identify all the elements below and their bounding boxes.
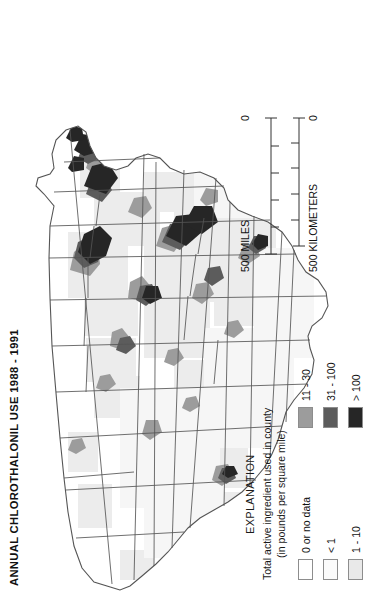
scale-miles-zero: 0	[239, 115, 251, 121]
legend-subtitle-line2: (in pounds per square mile)	[275, 430, 287, 558]
legend-swatch-0-or-no-data	[298, 559, 313, 580]
scale-kilometers-label: 500 KILOMETERS	[307, 184, 319, 272]
map-legend: EXPLANATION Total active ingredient used…	[244, 280, 384, 580]
legend-item-0-or-no-data[interactable]: 0 or no data	[298, 497, 313, 580]
legend-label-1-to-10: 1 - 10	[350, 526, 362, 553]
map-plate: ANNUAL CHLOROTHALONIL USE 1988 - 1991	[0, 0, 392, 604]
legend-label-31-to-100: 31 - 100	[325, 362, 337, 401]
scale-bar: 500 MILES 0 500 KILOMETERS 0	[255, 98, 325, 268]
page-title: ANNUAL CHLOROTHALONIL USE 1988 - 1991	[8, 329, 20, 586]
legend-item-over-100[interactable]: > 100	[348, 374, 363, 428]
legend-label-over-100: > 100	[350, 374, 362, 401]
legend-label-under-1: < 1	[325, 538, 337, 553]
legend-swatch-under-1	[323, 559, 338, 580]
legend-label-0-or-no-data: 0 or no data	[300, 497, 312, 553]
legend-item-under-1[interactable]: < 1	[323, 538, 338, 580]
legend-label-11-to-30: 11 - 30	[300, 369, 312, 401]
legend-item-11-to-30[interactable]: 11 - 30	[298, 369, 313, 428]
legend-swatch-1-to-10	[348, 559, 363, 580]
legend-heading: EXPLANATION	[244, 454, 256, 534]
legend-swatch-11-to-30	[298, 407, 313, 428]
legend-subtitle-line1: Total active ingredient used in county	[261, 408, 273, 580]
legend-item-31-to-100[interactable]: 31 - 100	[323, 362, 338, 428]
rotated-plate: ANNUAL CHLOROTHALONIL USE 1988 - 1991	[0, 0, 392, 604]
legend-swatch-31-to-100	[323, 407, 338, 428]
scale-miles-label: 500 MILES	[239, 220, 251, 272]
legend-swatch-over-100	[348, 407, 363, 428]
legend-item-1-to-10[interactable]: 1 - 10	[348, 526, 363, 580]
scale-kilometers-zero: 0	[307, 115, 319, 121]
